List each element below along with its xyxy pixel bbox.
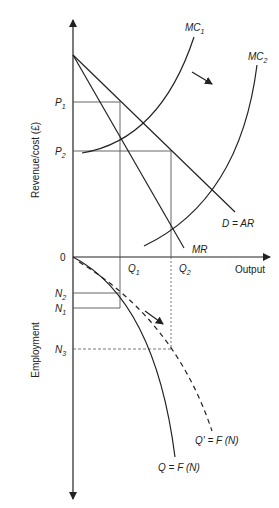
revenue-axis-label: Revenue/cost (£) — [30, 122, 41, 198]
mc1-curve — [82, 37, 194, 153]
shift-arrow-icon — [192, 72, 212, 84]
p1-label: P1 — [55, 97, 66, 110]
p2-label: P2 — [55, 146, 66, 159]
n3-label: N3 — [55, 344, 66, 357]
demand-label: D = AR — [222, 218, 254, 229]
output-axis-label: Output — [235, 264, 265, 275]
n2-label: N2 — [55, 288, 66, 301]
employment-axis-label: Employment — [30, 322, 41, 378]
shift-arrow-lower-icon — [145, 311, 163, 324]
production-shifted-curve — [79, 262, 212, 431]
mc2-label: MC2 — [248, 51, 268, 64]
mc1-label: MC1 — [185, 22, 205, 35]
q1-label: Q1 — [128, 263, 140, 276]
n1-label: N1 — [55, 303, 66, 316]
production-curve — [73, 257, 175, 457]
production-label: Q = F (N) — [158, 462, 200, 473]
mr-label: MR — [192, 244, 208, 255]
production-shifted-label: Q' = F (N) — [195, 435, 239, 446]
q2-label: Q2 — [179, 263, 191, 276]
economics-diagram: 0 Output Revenue/cost (£) Employment P1 … — [0, 0, 279, 508]
origin-label: 0 — [60, 252, 66, 263]
demand-curve — [73, 55, 235, 212]
